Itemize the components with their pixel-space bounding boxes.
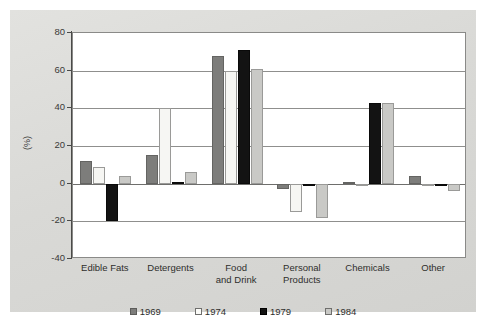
bar-chemicals-1974 [356, 184, 368, 186]
bar-edible-fats-1984 [119, 176, 131, 184]
bar-personal-products-1974 [290, 184, 302, 212]
x-axis-label-line: Detergents [138, 262, 204, 274]
x-axis-label-other: Other [400, 262, 466, 274]
legend-item-1984[interactable]: 1984 [325, 306, 356, 317]
legend-item-label: 1974 [205, 306, 226, 317]
square-light-gray-icon [325, 308, 332, 315]
legend-item-label: 1979 [270, 306, 291, 317]
bar-chemicals-1984 [382, 103, 394, 184]
bar-other-1979 [435, 184, 447, 186]
x-axis-label-line: Chemicals [335, 262, 401, 274]
y-tick-label: 20 [29, 140, 65, 150]
bar-edible-fats-1969 [80, 161, 92, 184]
x-axis-label-chemicals: Chemicals [335, 262, 401, 274]
bar-other-1969 [409, 176, 421, 184]
x-axis-label-edible-fats: Edible Fats [72, 262, 138, 274]
bar-detergents-1979 [172, 182, 184, 184]
x-axis-label-line: Personal [269, 262, 335, 274]
bar-food-and-drink-1984 [251, 69, 263, 184]
legend-item-1979[interactable]: 1979 [260, 306, 291, 317]
x-axis-label-line: Food [203, 262, 269, 274]
plot-area [72, 32, 466, 258]
x-axis-label-food-and-drink: Foodand Drink [203, 262, 269, 285]
x-axis-label-detergents: Detergents [138, 262, 204, 274]
bar-detergents-1984 [185, 172, 197, 183]
bar-food-and-drink-1974 [225, 71, 237, 184]
chart-legend: 1969197419791984 [0, 306, 486, 317]
bar-other-1974 [422, 184, 434, 186]
bar-edible-fats-1974 [93, 167, 105, 184]
bar-detergents-1974 [159, 108, 171, 183]
y-tick-label: -20 [29, 215, 65, 225]
bar-other-1984 [448, 184, 460, 192]
bar-personal-products-1984 [316, 184, 328, 218]
legend-item-label: 1969 [140, 306, 161, 317]
bar-food-and-drink-1969 [212, 56, 224, 184]
legend-item-1974[interactable]: 1974 [195, 306, 226, 317]
y-tick-label: 60 [29, 65, 65, 75]
x-axis-label-personal-products: PersonalProducts [269, 262, 335, 285]
y-tick-label: -40 [29, 253, 65, 263]
y-tick-label: 0 [29, 178, 65, 188]
x-axis-label-line: Edible Fats [72, 262, 138, 274]
chart-figure: (%) 806040200-20-40 Edible FatsDetergent… [0, 0, 486, 332]
legend-item-label: 1984 [335, 306, 356, 317]
bar-chemicals-1969 [343, 182, 355, 184]
bar-personal-products-1969 [277, 184, 289, 190]
y-tick-mark [67, 258, 72, 259]
bar-edible-fats-1979 [106, 184, 118, 222]
x-axis-label-line: and Drink [203, 274, 269, 286]
bar-chemicals-1979 [369, 103, 381, 184]
y-tick-label: 80 [29, 27, 65, 37]
square-black-icon [260, 308, 267, 315]
bar-personal-products-1979 [303, 184, 315, 186]
bar-detergents-1969 [146, 155, 158, 183]
bar-food-and-drink-1979 [238, 50, 250, 184]
x-axis-label-line: Products [269, 274, 335, 286]
square-white-icon [195, 308, 202, 315]
x-axis-label-line: Other [400, 262, 466, 274]
square-dark-gray-icon [130, 308, 137, 315]
legend-item-1969[interactable]: 1969 [130, 306, 161, 317]
y-tick-label: 40 [29, 102, 65, 112]
bars-layer [73, 33, 465, 257]
